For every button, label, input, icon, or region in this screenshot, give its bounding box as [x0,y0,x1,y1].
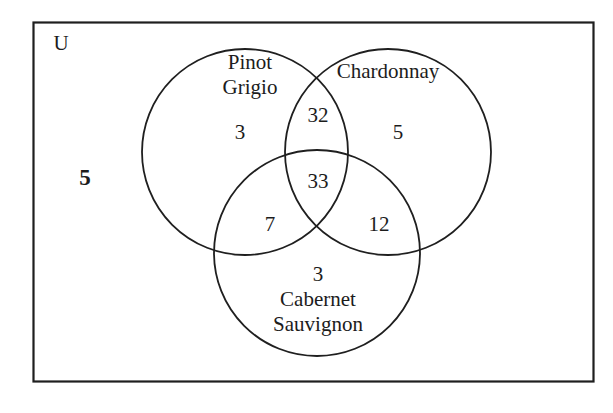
set-label-cabernet-sauvignon-line-1: Cabernet [273,287,363,312]
count-cabernet-sauvignon-only: 3 [313,263,324,287]
count-pinot-grigio-only: 3 [235,121,246,145]
count-pinot-cabernet: 7 [265,213,276,237]
set-label-pinot-grigio: Pinot Grigio [223,50,278,100]
outside-count: 5 [79,165,91,191]
set-label-chardonnay: Chardonnay [337,60,440,84]
set-label-pinot-grigio-line-2: Grigio [223,75,278,100]
count-all-three: 33 [308,170,329,194]
set-label-cabernet-sauvignon: Cabernet Sauvignon [273,287,363,337]
venn-diagram-canvas [0,0,613,413]
universe-label: U [53,32,68,56]
set-label-cabernet-sauvignon-line-2: Sauvignon [273,312,363,337]
count-chardonnay-only: 5 [393,121,404,145]
count-pinot-chardonnay: 32 [308,104,329,128]
venn-diagram-page: U 5 Pinot Grigio Chardonnay Cabernet Sau… [0,0,613,413]
count-chardonnay-cabernet: 12 [369,213,390,237]
set-label-pinot-grigio-line-1: Pinot [223,50,278,75]
